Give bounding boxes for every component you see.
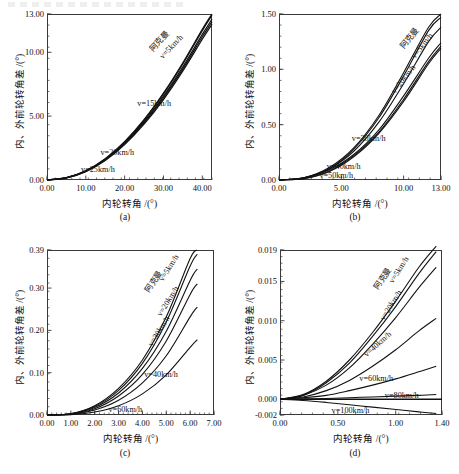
x-tick-label: 10.00 — [76, 183, 95, 193]
y-tick-label: 1.00 — [261, 64, 276, 74]
x-axis-title: 内轮转角 /(°) — [103, 431, 158, 445]
x-tick-label: 40.00 — [193, 183, 212, 193]
x-tick-label: 5.00 — [159, 418, 174, 428]
x-tick-label: 20.00 — [115, 183, 134, 193]
x-tick-label: 2.00 — [87, 418, 102, 428]
curve-v-5km-h — [47, 254, 197, 415]
curve-label: v=80km/h — [385, 391, 419, 400]
x-tick-label: 1.40 — [435, 418, 450, 428]
x-tick-label: 3.00 — [111, 418, 126, 428]
curve-label: v=25km/h — [81, 165, 115, 174]
x-tick-label: 1.00 — [388, 418, 403, 428]
curve-label: v=50km/h — [319, 171, 353, 180]
y-axis-title: 内、外前轮转角差 /(°) — [12, 289, 26, 384]
curve-v-30km-h — [279, 43, 441, 180]
x-tick-label: 6.00 — [183, 418, 198, 428]
y-tick-label: 0.39 — [29, 245, 44, 255]
curve-阿克曼 — [279, 14, 441, 180]
y-tick-label: 0.20 — [29, 325, 44, 335]
curve-阿克曼 — [280, 246, 436, 399]
y-tick-label: 0.005 — [258, 355, 277, 365]
panel-caption-b: (b) — [335, 212, 375, 222]
chart-panel-d: 0.000.501.001.40-0.0020.0000.0050.0100.0… — [230, 237, 459, 474]
curve-v-20km-h — [280, 267, 436, 399]
x-tick-label: 7.00 — [207, 418, 222, 428]
curve-label: v=60km/h — [359, 374, 393, 383]
y-tick-label: 0.10 — [29, 368, 44, 378]
curve-label: v=30km/h — [352, 134, 386, 143]
curve-v-5km-h — [280, 252, 436, 400]
y-tick-label: 0.015 — [258, 276, 277, 286]
panel-caption-a: (a) — [105, 212, 145, 222]
curve-label: v=15km/h — [137, 99, 171, 108]
curve-label: v=40km/h — [144, 370, 178, 379]
chart-panel-a: 0.0010.0020.0030.0040.000.005.0010.0013.… — [0, 0, 229, 237]
chart-panel-c: 0.001.002.003.004.005.006.007.000.000.10… — [0, 237, 229, 474]
y-tick-label: 0.50 — [261, 120, 276, 130]
x-tick-label: 0.50 — [330, 418, 345, 428]
y-tick-label: 0.00 — [261, 175, 276, 185]
y-tick-label: 0.010 — [258, 316, 277, 326]
y-tick-label: 0.30 — [29, 283, 44, 293]
x-tick-label: 13.00 — [431, 183, 450, 193]
y-tick-label: 5.00 — [29, 111, 44, 121]
curve-v-40km-h — [47, 307, 197, 415]
curve-v-5km-h — [279, 17, 441, 180]
x-tick-label: 4.00 — [135, 418, 150, 428]
curve-v-40km-h — [279, 46, 441, 180]
curve-label: v=40km/h — [327, 162, 361, 171]
panel-caption-d: (d) — [335, 448, 375, 458]
y-axis-title: 内、外前轮转角差 /(°) — [12, 54, 26, 149]
x-axis-title: 内轮转角 /(°) — [333, 431, 388, 445]
y-tick-label: 0.000 — [258, 394, 277, 404]
chart-panel-b: 0.005.0010.0013.000.000.501.001.50内轮转角 /… — [230, 0, 459, 237]
curve-label: v=20km/h — [100, 148, 134, 157]
x-tick-label: 30.00 — [154, 183, 173, 193]
y-tick-label: 13.00 — [25, 9, 44, 19]
curve-label: v=100km/h — [332, 406, 370, 415]
x-axis-title: 内轮转角 /(°) — [332, 196, 387, 210]
y-axis-title: 内、外前轮转角差 /(°) — [242, 289, 256, 384]
panel-caption-c: (c) — [105, 448, 145, 458]
curve-label: v=60km/h — [108, 405, 142, 414]
x-tick-label: 5.00 — [334, 183, 349, 193]
x-axis-title: 内轮转角 /(°) — [102, 196, 157, 210]
y-tick-label: 10.00 — [25, 47, 44, 57]
y-tick-label: 0.00 — [29, 175, 44, 185]
x-tick-label: 1.00 — [63, 418, 78, 428]
y-tick-label: 0.019 — [258, 245, 277, 255]
y-axis-title: 内、外前轮转角差 /(°) — [242, 54, 256, 149]
y-tick-label: 0.00 — [29, 410, 44, 420]
y-tick-label: 1.50 — [261, 9, 276, 19]
y-tick-label: -0.002 — [255, 410, 277, 420]
x-tick-label: 10.00 — [394, 183, 413, 193]
